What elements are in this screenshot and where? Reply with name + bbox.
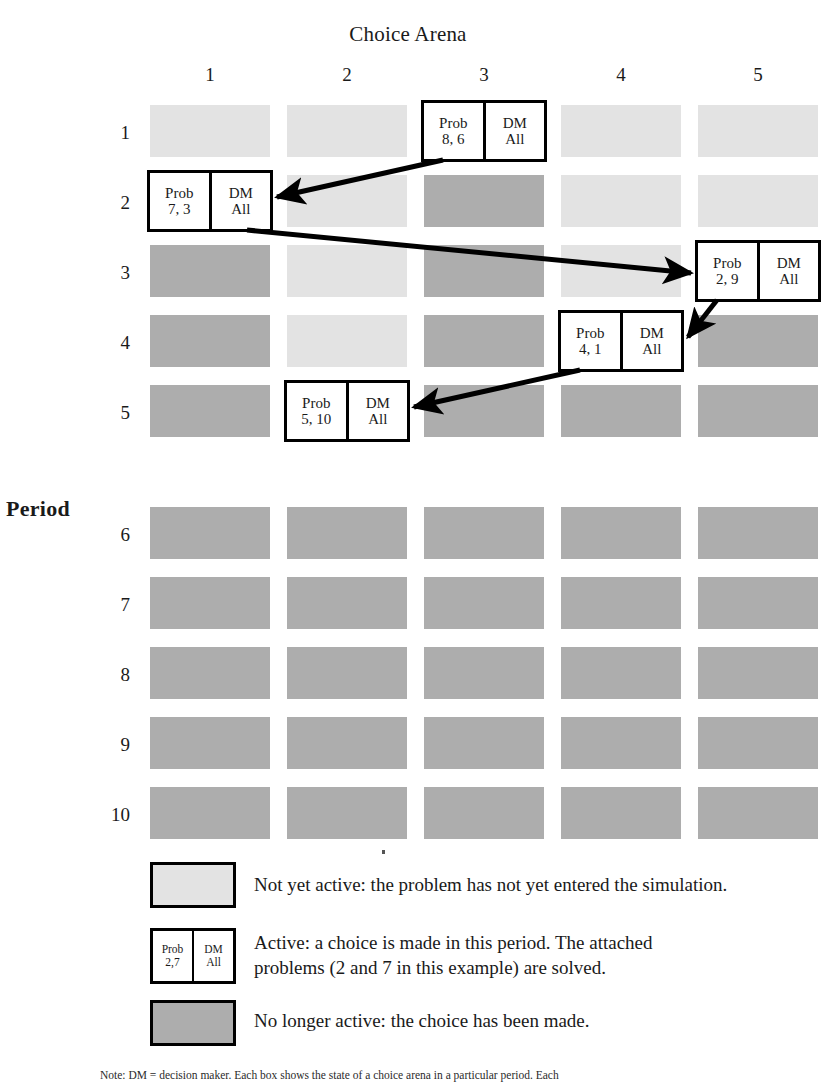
legend-box-prob-label: Prob xyxy=(162,943,184,956)
grid-cell-p10-a4 xyxy=(561,787,681,839)
grid-cell-p9-a1 xyxy=(150,717,270,769)
grid-cell-p4-a5 xyxy=(698,315,818,367)
grid-cell-p2-a3 xyxy=(424,175,544,227)
grid-cell-p1-a5 xyxy=(698,105,818,157)
legend-swatch-active: Prob 2,7 DM All xyxy=(150,928,236,984)
legend-text-done: No longer active: the choice has been ma… xyxy=(254,1008,802,1033)
chart-title: Choice Arena xyxy=(0,22,816,47)
column-header-5: 5 xyxy=(698,64,818,86)
prob-label: Prob xyxy=(713,255,741,271)
dm-value: All xyxy=(642,341,661,357)
grid-cell-p4-a1 xyxy=(150,315,270,367)
grid-cell-p9-a5 xyxy=(698,717,818,769)
legend-box-prob-value: 2,7 xyxy=(165,956,179,969)
legend-box-dm-value: All xyxy=(206,956,221,969)
row-header-5: 5 xyxy=(96,402,130,424)
grid-cell-p4-a3 xyxy=(424,315,544,367)
column-header-4: 4 xyxy=(561,64,681,86)
active-cell-p1-a3[interactable]: Prob8, 6DMAll xyxy=(421,100,547,162)
grid-cell-p10-a5 xyxy=(698,787,818,839)
grid-cell-p1-a4 xyxy=(561,105,681,157)
grid-cell-p3-a2 xyxy=(287,245,407,297)
active-cell-p4-a4[interactable]: Prob4, 1DMAll xyxy=(558,310,684,372)
y-axis-label: Period xyxy=(6,496,70,522)
grid-cell-p9-a3 xyxy=(424,717,544,769)
grid-cell-p6-a4 xyxy=(561,507,681,559)
column-header-2: 2 xyxy=(287,64,407,86)
grid-cell-p8-a3 xyxy=(424,647,544,699)
grid-cell-p4-a2 xyxy=(287,315,407,367)
row-header-6: 6 xyxy=(96,524,130,546)
row-header-2: 2 xyxy=(96,192,130,214)
column-header-3: 3 xyxy=(424,64,544,86)
prob-pane: Prob4, 1 xyxy=(561,313,623,369)
grid-cell-p5-a5 xyxy=(698,385,818,437)
row-header-7: 7 xyxy=(96,594,130,616)
grid-cell-p3-a3 xyxy=(424,245,544,297)
prob-value: 4, 1 xyxy=(579,341,602,357)
dm-pane: DMAll xyxy=(486,103,545,159)
grid-cell-p1-a2 xyxy=(287,105,407,157)
dm-pane: DMAll xyxy=(623,313,682,369)
grid-cell-p10-a2 xyxy=(287,787,407,839)
active-cell-p3-a5[interactable]: Prob2, 9DMAll xyxy=(695,240,821,302)
grid-cell-p3-a1 xyxy=(150,245,270,297)
prob-label: Prob xyxy=(302,395,330,411)
stray-mark xyxy=(382,850,385,854)
row-header-4: 4 xyxy=(96,332,130,354)
grid-cell-p8-a1 xyxy=(150,647,270,699)
grid-cell-p6-a1 xyxy=(150,507,270,559)
row-header-3: 3 xyxy=(96,262,130,284)
legend-text-active-line1: Active: a choice is made in this period.… xyxy=(254,930,802,955)
prob-label: Prob xyxy=(576,325,604,341)
active-cell-p2-a1[interactable]: Prob7, 3DMAll xyxy=(147,170,273,232)
grid-cell-p10-a1 xyxy=(150,787,270,839)
prob-pane: Prob7, 3 xyxy=(150,173,212,229)
dm-value: All xyxy=(368,411,387,427)
grid-cell-p5-a1 xyxy=(150,385,270,437)
grid-cell-p9-a2 xyxy=(287,717,407,769)
grid-cell-p5-a4 xyxy=(561,385,681,437)
legend-text-active: Active: a choice is made in this period.… xyxy=(254,930,802,980)
dm-pane: DMAll xyxy=(760,243,819,299)
prob-value: 7, 3 xyxy=(168,201,191,217)
grid-cell-p6-a5 xyxy=(698,507,818,559)
prob-pane: Prob2, 9 xyxy=(698,243,760,299)
grid-cell-p8-a4 xyxy=(561,647,681,699)
grid-cell-p3-a4 xyxy=(561,245,681,297)
dm-label: DM xyxy=(229,185,253,201)
grid-cell-p9-a4 xyxy=(561,717,681,769)
legend-text-active-line2: problems (2 and 7 in this example) are s… xyxy=(254,955,802,980)
dm-label: DM xyxy=(640,325,664,341)
active-cell-p5-a2[interactable]: Prob5, 10DMAll xyxy=(284,380,410,442)
dm-value: All xyxy=(505,131,524,147)
column-header-1: 1 xyxy=(150,64,270,86)
grid-cell-p2-a5 xyxy=(698,175,818,227)
prob-value: 8, 6 xyxy=(442,131,465,147)
legend-swatch-done xyxy=(150,1000,236,1046)
prob-value: 2, 9 xyxy=(716,271,739,287)
row-header-8: 8 xyxy=(96,664,130,686)
legend-swatch-pending xyxy=(150,862,236,908)
dm-pane: DMAll xyxy=(212,173,271,229)
row-header-10: 10 xyxy=(96,804,130,826)
grid-cell-p7-a5 xyxy=(698,577,818,629)
grid-cell-p7-a4 xyxy=(561,577,681,629)
dm-label: DM xyxy=(366,395,390,411)
grid-cell-p7-a3 xyxy=(424,577,544,629)
grid-cell-p1-a1 xyxy=(150,105,270,157)
prob-label: Prob xyxy=(439,115,467,131)
grid-cell-p8-a5 xyxy=(698,647,818,699)
grid-cell-p7-a2 xyxy=(287,577,407,629)
row-header-9: 9 xyxy=(96,734,130,756)
prob-value: 5, 10 xyxy=(301,411,331,427)
legend-box-dm-pane: DM All xyxy=(194,931,233,981)
legend-box-prob-pane: Prob 2,7 xyxy=(153,931,194,981)
dm-label: DM xyxy=(503,115,527,131)
grid-cell-p2-a4 xyxy=(561,175,681,227)
dm-value: All xyxy=(779,271,798,287)
grid-cell-p10-a3 xyxy=(424,787,544,839)
grid-cell-p6-a2 xyxy=(287,507,407,559)
dm-label: DM xyxy=(777,255,801,271)
